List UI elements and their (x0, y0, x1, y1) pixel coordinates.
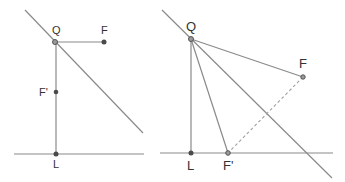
left-diagonal-line (25, 10, 143, 133)
left-point-Q (53, 40, 58, 45)
right-point-Q (189, 37, 194, 42)
left-point-Fprime (54, 90, 59, 95)
right-point-Fprime (226, 151, 231, 156)
right-label-F: F (299, 56, 307, 71)
left-label-L: L (53, 158, 59, 170)
geometry-diagram: Q F F' L Q F F' L (0, 0, 345, 182)
right-dashed-segment-FFprime (228, 77, 303, 153)
left-label-F: F (101, 24, 108, 36)
left-point-L (54, 152, 59, 157)
left-figure: Q F F' L (14, 10, 144, 170)
left-point-F (102, 40, 107, 45)
left-label-Q: Q (52, 24, 61, 36)
right-figure: Q F F' L (160, 10, 333, 178)
right-point-L (189, 151, 194, 156)
left-label-Fprime: F' (39, 86, 48, 98)
right-label-Q: Q (186, 19, 196, 34)
right-label-L: L (187, 158, 194, 173)
right-label-Fprime: F' (223, 158, 233, 173)
right-point-F (301, 75, 305, 79)
right-segment-QF (191, 39, 303, 77)
